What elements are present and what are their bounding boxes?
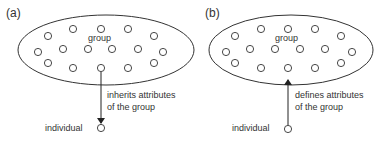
- member-circle: [296, 45, 303, 52]
- panel-a-label: (a): [6, 6, 21, 20]
- member-circle: [44, 32, 51, 39]
- member-circle: [337, 32, 344, 39]
- panel-b: (b) group individual defines attributes …: [205, 6, 373, 133]
- group-members: [222, 25, 355, 71]
- arrow-text-line2: of the group: [295, 102, 343, 112]
- arrow-text-line2: of the group: [107, 102, 155, 112]
- member-circle: [108, 45, 115, 52]
- member-circle: [124, 25, 131, 32]
- panel-b-label: (b): [205, 6, 220, 20]
- member-circle: [337, 59, 344, 66]
- member-circle: [321, 45, 328, 52]
- group-label: group: [275, 33, 298, 43]
- member-circle: [222, 48, 229, 55]
- member-circle: [69, 64, 76, 71]
- member-circle: [348, 48, 355, 55]
- arrow-text-line1: inherits attributes: [107, 90, 176, 100]
- member-circle: [271, 45, 278, 52]
- member-circle: [124, 64, 131, 71]
- member-circle: [311, 64, 318, 71]
- member-circle: [69, 25, 76, 32]
- individual-circle: [284, 125, 291, 132]
- arrow-text-line1: defines attributes: [295, 90, 364, 100]
- member-circle: [44, 59, 51, 66]
- member-circle: [134, 45, 141, 52]
- member-circle: [59, 45, 66, 52]
- individual-label: individual: [232, 123, 270, 133]
- member-circle: [231, 59, 238, 66]
- member-circle: [257, 25, 264, 32]
- member-circle: [284, 64, 291, 71]
- member-circle: [159, 48, 166, 55]
- group-ellipse: [209, 15, 373, 85]
- member-circle: [284, 25, 291, 32]
- group-label: group: [88, 33, 111, 43]
- member-circle: [150, 32, 157, 39]
- member-circle: [246, 45, 253, 52]
- member-circle: [257, 64, 264, 71]
- member-circle: [311, 25, 318, 32]
- member-circle: [84, 45, 91, 52]
- member-circle: [34, 48, 41, 55]
- group-ellipse: [18, 15, 194, 85]
- panel-a: (a) group individual inherits attributes…: [6, 6, 194, 133]
- member-circle: [97, 25, 104, 32]
- member-circle: [231, 32, 238, 39]
- individual-label: individual: [45, 123, 83, 133]
- individual-circle: [97, 124, 104, 131]
- group-members: [34, 25, 166, 71]
- diagram-canvas: (a) group individual inherits attributes…: [0, 0, 389, 141]
- member-circle: [97, 64, 104, 71]
- member-circle: [150, 59, 157, 66]
